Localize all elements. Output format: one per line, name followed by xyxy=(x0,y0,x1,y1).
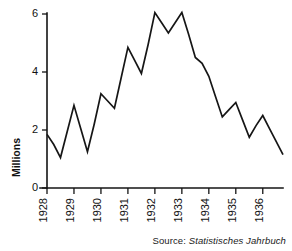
y-axis-title: Millions xyxy=(10,138,22,177)
x-tick-label: 1930 xyxy=(91,198,103,222)
x-axis-tick-labels: 192819291930193119321933193419351936 xyxy=(37,198,265,222)
chart-axes xyxy=(40,13,283,188)
x-tick-label: 1934 xyxy=(199,198,211,222)
x-tick-label: 1928 xyxy=(37,198,49,222)
source-prefix: Source: xyxy=(153,235,186,246)
x-tick-label: 1929 xyxy=(64,198,76,222)
series-line-unemployed xyxy=(47,13,283,158)
y-axis-tick-labels: 0246 xyxy=(32,7,38,193)
x-tick-label: 1935 xyxy=(226,198,238,222)
x-tick-label: 1933 xyxy=(172,198,184,222)
x-tick-label: 1932 xyxy=(145,198,157,222)
line-chart: 0246 19281929193019311932193319341935193… xyxy=(0,0,292,251)
y-tick-label: 6 xyxy=(32,7,38,19)
x-tick-label: 1931 xyxy=(118,198,130,222)
source-title: Statistisches Jahrbuch xyxy=(189,235,286,246)
x-tick-label: 1936 xyxy=(253,198,265,222)
data-series-unemployed xyxy=(47,13,283,158)
chart-ticks xyxy=(42,14,263,194)
source-note: Source: Statistisches Jahrbuch xyxy=(153,235,286,246)
y-axis-title-text: Millions xyxy=(10,138,22,177)
y-tick-label: 2 xyxy=(32,123,38,135)
y-tick-label: 0 xyxy=(32,181,38,193)
y-tick-label: 4 xyxy=(32,65,38,77)
chart-figure: 0246 19281929193019311932193319341935193… xyxy=(0,0,292,251)
